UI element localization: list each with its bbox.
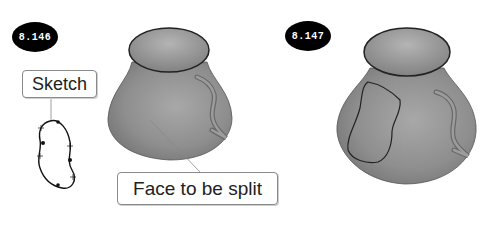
vase-left-rim (129, 28, 209, 72)
sketch-profile (37, 120, 76, 188)
face-callout: Face to be split (117, 172, 278, 205)
vase-left (108, 28, 232, 160)
figure-badge-left: 8.146 (12, 22, 58, 52)
figure-badge-right: 8.147 (285, 21, 331, 51)
vase-right-rim (364, 28, 450, 76)
sketch-callout: Sketch (22, 70, 97, 98)
vase-right (337, 28, 476, 184)
